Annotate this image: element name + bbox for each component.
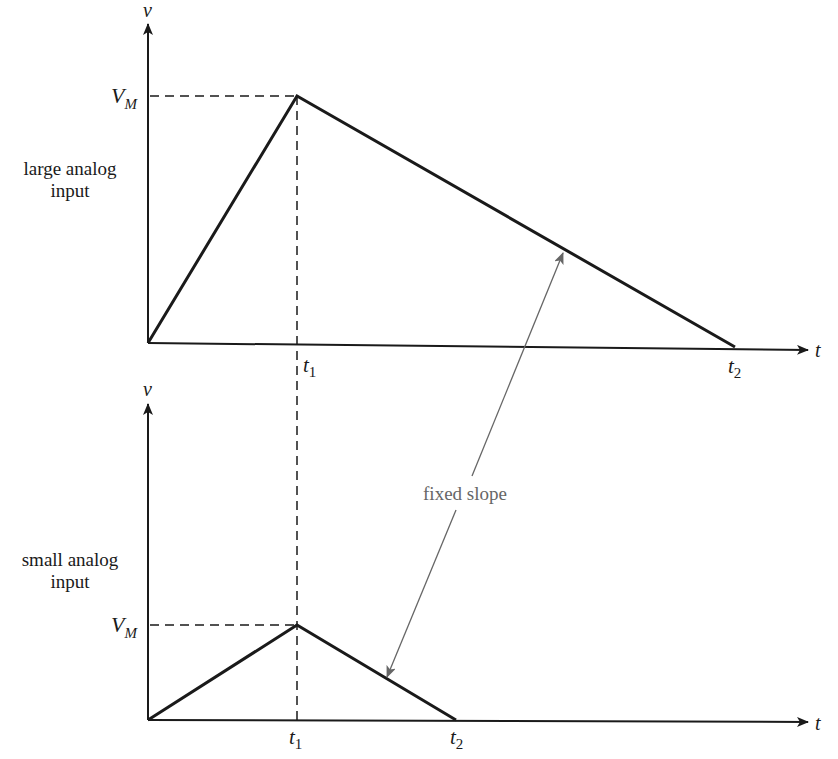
bottom-vm-label: VM bbox=[111, 612, 138, 641]
diagram-canvas: v t VM t1 t2 large analog input v t VM t… bbox=[0, 0, 838, 759]
bottom-x-axis bbox=[148, 720, 808, 722]
top-panel-label-line1: large analog bbox=[23, 158, 117, 179]
fixed-slope-arrow-up bbox=[472, 253, 563, 476]
fixed-slope-arrow-down bbox=[387, 510, 456, 677]
top-t2-label: t2 bbox=[728, 354, 741, 381]
top-panel-label-line2: input bbox=[50, 180, 90, 201]
bottom-x-axis-label: t bbox=[815, 712, 821, 734]
top-panel: v t VM t1 t2 large analog input bbox=[23, 0, 821, 381]
fixed-slope-label: fixed slope bbox=[423, 483, 507, 504]
bottom-waveform bbox=[148, 625, 456, 720]
top-waveform bbox=[148, 96, 735, 347]
bottom-panel-label-line1: small analog bbox=[22, 549, 119, 570]
top-x-axis-label: t bbox=[815, 339, 821, 361]
top-x-axis bbox=[148, 343, 808, 350]
bottom-panel: v t VM t1 t2 small analog input bbox=[22, 378, 821, 752]
top-t1-label: t1 bbox=[303, 353, 316, 380]
bottom-y-axis-label: v bbox=[143, 378, 152, 400]
top-y-axis-label: v bbox=[143, 0, 152, 21]
fixed-slope-annotation: fixed slope bbox=[387, 253, 563, 677]
top-vm-label: VM bbox=[111, 83, 138, 112]
bottom-panel-label-line2: input bbox=[50, 571, 90, 592]
bottom-t2-label: t2 bbox=[450, 725, 463, 752]
bottom-t1-label: t1 bbox=[289, 725, 302, 752]
